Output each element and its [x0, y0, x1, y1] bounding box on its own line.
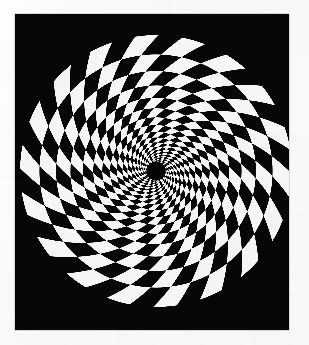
black-plate — [15, 14, 289, 330]
illusion-figure-root — [0, 0, 309, 345]
spiral-checkerboard-canvas — [15, 14, 289, 330]
